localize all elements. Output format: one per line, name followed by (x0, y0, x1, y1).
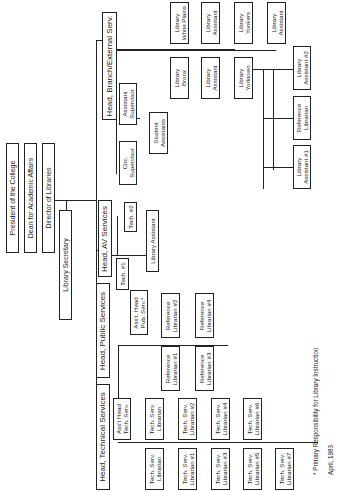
av-tech-1: Tech. #1 (116, 258, 129, 290)
director-box: Director of Libraries (42, 143, 55, 253)
av-tech-v (117, 216, 118, 255)
tech-lower-2: Tech. Serv.Librarian #1 (178, 448, 197, 490)
yorktown-to-v (253, 69, 263, 70)
tech-upper-2: Tech. Serv.Librarian #2 (178, 398, 197, 440)
yorktown-assistant-2: LibraryAssistant #2 (293, 46, 311, 90)
secretary-link (66, 200, 67, 210)
tech-lower-1: Tech. Serv.Librarian (145, 448, 164, 490)
library-yonkers: LibraryYonkers (234, 2, 253, 44)
tech-lower-5: Tech. Serv.Librarian #7 (275, 448, 294, 490)
director-to-spine (55, 200, 96, 201)
yonkers-assistant: LibraryAssistant (267, 2, 286, 44)
library-white-plains: LibraryWhite Plains (170, 2, 189, 44)
president-box: President of the College (6, 143, 19, 253)
head-av-box: Head, AV Services (98, 200, 112, 277)
yorktown-v (273, 70, 274, 170)
footnote: * Primary Responsibility for Library Ins… (312, 348, 319, 475)
library-assistant-lower: LibraryAssistant (201, 57, 220, 99)
asst-head-tech-box: Ass't HeadTech. Serv. (113, 398, 131, 440)
head-technical-box: Head, Technical Services (96, 384, 110, 490)
library-bronx: LibraryBronx (170, 57, 189, 99)
head-branch-box: Head, Branch/External Serv. (102, 12, 117, 120)
dean-box: Dean for Academic Affairs (24, 143, 37, 253)
av-library-assistant: Library Assistant (146, 210, 159, 272)
yorktown-branch-v (263, 69, 264, 189)
yt-link-3 (263, 167, 293, 168)
ref-lib-1: ReferenceLibrarian #1 (161, 346, 180, 391)
circ-supervisor-box: Circ.Supervisor (119, 141, 137, 185)
ref-lib-4: ReferenceLibrarian #4 (195, 293, 214, 338)
yt-link-2 (263, 118, 293, 119)
tech-lower-4: Tech. Serv.Librarian #5 (243, 448, 262, 490)
asst-supervisor-box: AssistantSupervisor (119, 83, 137, 125)
av-tech-2: Tech. #2 (124, 202, 137, 232)
tech-upper-1: Tech. Serv.Librarian (145, 398, 164, 440)
yorktown-reference: ReferenceLibrarian (293, 96, 311, 140)
date: April, 1983 (327, 445, 334, 475)
tech-upper-4: Tech. Serv.Librarian #6 (243, 398, 262, 440)
branch-libs-row (116, 50, 276, 51)
ref-lib-2: ReferenceLibrarian #2 (161, 293, 180, 338)
yt-link-1 (263, 69, 293, 70)
student-assistants-box: StudentAssistants (149, 112, 168, 154)
asst-head-public-box: Ass't. HeadPub. Serv.* (130, 290, 148, 335)
library-assistant-upper: LibraryAssistant (201, 2, 220, 44)
ref-lib-3: ReferenceLibrarian #3 (195, 346, 214, 391)
library-yorktown: LibraryYorktown (234, 57, 253, 99)
head-public-box: Head, Public Services (96, 283, 110, 378)
tech-lower-3: Tech. Serv.Librarian #3 (211, 448, 230, 490)
yorktown-assistant-1: LibraryAssistant #1 (293, 145, 311, 189)
secretary-box: Library Secretary (59, 210, 72, 320)
tech-row (118, 442, 318, 443)
tech-upper-3: Tech. Serv.Librarian #4 (211, 398, 230, 440)
